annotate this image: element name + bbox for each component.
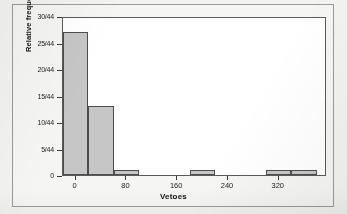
histogram-bar (88, 106, 113, 175)
x-axis-tick-label: 160 (161, 181, 191, 190)
x-axis-tick (176, 176, 177, 180)
histogram-bar (266, 170, 291, 175)
y-axis-tick-label: 0 (50, 172, 54, 179)
x-axis-tick (75, 176, 76, 180)
histogram-bar (190, 170, 215, 175)
histogram-bar (114, 170, 139, 175)
y-axis-tick (57, 44, 62, 45)
y-axis-tick-label: 15/44 (37, 93, 54, 100)
histogram-bar (291, 170, 316, 175)
y-axis-tick (57, 97, 62, 98)
y-axis-tick (57, 17, 62, 18)
y-axis-tick-label: 10/44 (37, 119, 54, 126)
x-axis-title: Vetoes (0, 192, 347, 201)
histogram-figure: 05/4410/4415/4420/4425/4430/44 080160240… (0, 0, 347, 214)
y-axis-tick (57, 176, 62, 177)
plot-area (62, 17, 326, 176)
bars-container (63, 18, 325, 175)
y-axis-tick (57, 150, 62, 151)
x-axis-tick (278, 176, 279, 180)
histogram-bar (63, 32, 88, 175)
y-axis-tick-label: 25/44 (37, 40, 54, 47)
x-axis-tick-label: 80 (110, 181, 140, 190)
x-axis-tick-label: 320 (263, 181, 293, 190)
y-axis-tick (57, 123, 62, 124)
y-axis-tick (57, 70, 62, 71)
y-axis-tick-label: 5/44 (41, 146, 54, 153)
x-axis-tick-label: 0 (60, 181, 90, 190)
x-axis-tick (125, 176, 126, 180)
x-axis-tick (227, 176, 228, 180)
y-axis-tick-label: 30/44 (37, 13, 54, 20)
y-axis-tick-label: 20/44 (37, 66, 54, 73)
x-axis-tick-label: 240 (212, 181, 242, 190)
y-axis-title: Relative frequency (24, 0, 33, 52)
